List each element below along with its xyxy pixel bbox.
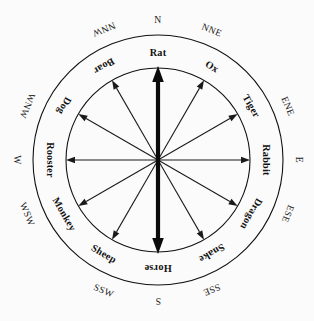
zodiac-label-boar: Boar — [91, 56, 116, 77]
compass-svg: RatOxTigerRabbitDragonSnakeHorseSheepMon… — [0, 0, 314, 321]
compass-label-wnw: WNW — [17, 92, 37, 121]
zodiac-label-snake: Snake — [197, 242, 227, 266]
zodiac-label-ox: Ox — [203, 58, 221, 75]
radial-arrow-head — [66, 157, 75, 163]
compass-label-ssw: SSW — [92, 281, 116, 299]
radial-arrow-head — [228, 199, 237, 206]
radial-arrow-head — [78, 199, 87, 206]
zodiac-label-rabbit: Rabbit — [261, 144, 272, 176]
radial-arrow-shaft — [158, 88, 200, 160]
radial-arrow-shaft — [158, 160, 230, 202]
compass-label-sse: SSE — [202, 282, 223, 299]
compass-label-e: E — [294, 157, 305, 163]
zodiac-label-rat: Rat — [150, 47, 167, 58]
compass-label-ene: ENE — [279, 95, 297, 118]
zodiac-label-horse: Horse — [144, 263, 172, 274]
zodiac-label-tiger: Tiger — [241, 92, 263, 119]
compass-label-s: S — [155, 296, 161, 307]
compass-label-n: N — [154, 14, 161, 25]
radial-arrow-head — [78, 114, 87, 121]
radial-arrow-shaft — [117, 160, 159, 232]
zodiac-label-dog: Dog — [55, 95, 74, 116]
compass-label-nnw: NNW — [90, 20, 117, 40]
radial-arrow-shaft — [158, 119, 230, 161]
radial-arrow-shaft — [158, 160, 200, 232]
zodiac-label-rooster: Rooster — [45, 142, 56, 178]
radial-arrow-head — [197, 80, 204, 89]
compass-label-ese: ESE — [280, 203, 297, 224]
radial-arrow-head — [197, 230, 204, 239]
compass-label-w: W — [12, 155, 23, 165]
zodiac-label-sheep: Sheep — [89, 242, 118, 265]
compass-label-nne: NNE — [200, 21, 224, 39]
radial-arrow-shaft — [86, 119, 158, 161]
zodiac-compass-figure: RatOxTigerRabbitDragonSnakeHorseSheepMon… — [0, 0, 314, 321]
radial-arrow-shaft — [117, 88, 159, 160]
compass-label-wsw: WSW — [18, 200, 38, 227]
radial-arrow-head — [228, 114, 237, 121]
radial-arrow-head — [112, 80, 119, 89]
radial-arrow-shaft — [86, 160, 158, 202]
zodiac-label-monkey: Monkey — [50, 195, 78, 233]
zodiac-label-dragon: Dragon — [238, 196, 265, 231]
radial-arrow-head — [241, 157, 250, 163]
radial-arrow-head — [112, 230, 119, 239]
